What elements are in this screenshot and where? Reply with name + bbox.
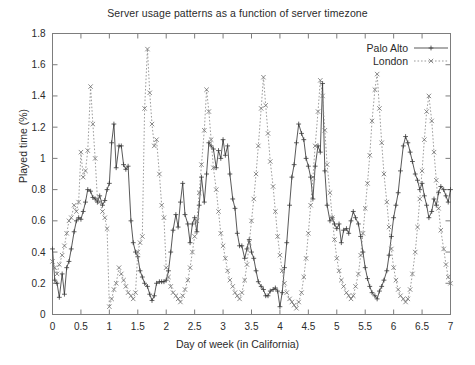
x-tick-label: 0: [50, 321, 56, 332]
x-tick-label: 3: [220, 321, 226, 332]
x-tick-label: 6: [391, 321, 397, 332]
y-tick-label: 0: [40, 309, 46, 320]
x-tick-label: 0.5: [74, 321, 88, 332]
x-tick-label: 2.5: [188, 321, 202, 332]
x-tick-label: 4: [277, 321, 283, 332]
x-tick-label: 6.5: [415, 321, 429, 332]
x-axis-ticks: 00.511.522.533.544.555.566.57: [50, 34, 454, 332]
x-tick-label: 1.5: [131, 321, 145, 332]
y-tick-label: 0.6: [32, 215, 46, 226]
chart-root: Server usage patterns as a function of s…: [0, 0, 475, 365]
y-axis-label: Played time (%): [17, 71, 29, 221]
x-tick-label: 4.5: [301, 321, 315, 332]
plot-area: 00.511.522.533.544.555.566.57 00.20.40.6…: [0, 0, 475, 365]
series-markers-palo-alto: [50, 81, 453, 309]
legend: Palo AltoLondon: [367, 42, 448, 67]
y-axis-ticks: 00.20.40.60.811.21.41.61.8: [32, 28, 451, 320]
legend-label-palo-alto: Palo Alto: [367, 42, 409, 54]
x-tick-label: 7: [448, 321, 454, 332]
legend-label-london: London: [373, 55, 408, 67]
series-line-london: [53, 49, 451, 308]
y-tick-label: 0.2: [32, 278, 46, 289]
x-tick-label: 5.5: [358, 321, 372, 332]
plot-frame: [53, 34, 451, 315]
series-markers-london: [50, 47, 452, 311]
y-tick-label: 0.4: [32, 247, 46, 258]
data-series-group: [50, 47, 453, 311]
x-tick-label: 2: [163, 321, 169, 332]
y-tick-label: 1.4: [32, 90, 46, 101]
y-tick-label: 1.8: [32, 28, 46, 39]
x-tick-label: 1: [107, 321, 113, 332]
x-tick-label: 5: [334, 321, 340, 332]
y-tick-label: 0.8: [32, 184, 46, 195]
chart-canvas: 00.511.522.533.544.555.566.57 00.20.40.6…: [0, 0, 475, 365]
x-axis-label: Day of week (in California): [0, 338, 475, 350]
x-tick-label: 3.5: [245, 321, 259, 332]
y-tick-label: 1.2: [32, 122, 46, 133]
series-line-palo-alto: [53, 83, 451, 306]
y-tick-label: 1.6: [32, 59, 46, 70]
y-tick-label: 1: [40, 153, 46, 164]
